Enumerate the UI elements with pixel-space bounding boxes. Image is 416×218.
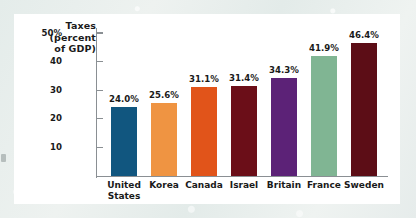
chart-panel: Taxes (percent of GDP) 1020304050% 24.0%…: [14, 14, 400, 204]
bar-value-label: 34.3%: [264, 65, 304, 75]
bar-value-label: 41.9%: [304, 43, 344, 53]
bar-value-label: 31.1%: [184, 74, 224, 84]
bar: [351, 43, 377, 176]
bar-value-label: 25.6%: [144, 90, 184, 100]
bar: [151, 103, 177, 176]
bar-value-label: 46.4%: [344, 30, 384, 40]
category-label: Sweden: [337, 180, 391, 191]
category-label-line: Sweden: [337, 180, 391, 191]
bar: [271, 78, 297, 176]
bar: [191, 87, 217, 176]
bar: [231, 86, 257, 176]
chart-screenshot: Taxes (percent of GDP) 1020304050% 24.0%…: [0, 0, 416, 218]
bar-value-label: 24.0%: [104, 94, 144, 104]
bar-value-label: 31.4%: [224, 73, 264, 83]
scan-artifact-mark: [1, 154, 6, 162]
bars-layer: 24.0%25.6%31.1%31.4%34.3%41.9%46.4%: [14, 14, 400, 204]
bar: [111, 107, 137, 176]
bar: [311, 56, 337, 176]
category-label-line: States: [97, 191, 151, 202]
